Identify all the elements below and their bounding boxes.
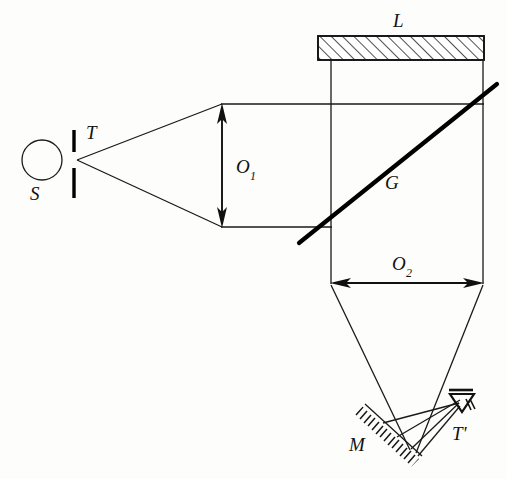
- aperture-1-label-subscript: 1: [250, 169, 256, 183]
- lens-hatching: [318, 36, 484, 60]
- aperture-2-label-base: O: [392, 253, 406, 274]
- image-slit-label: T': [452, 423, 468, 444]
- lens-element: [318, 36, 484, 60]
- aperture-1-label-base: O: [236, 156, 250, 177]
- mirror-label: M: [348, 434, 366, 455]
- optical-diagram-figure: S T O 1: [0, 0, 507, 479]
- source-label: S: [30, 183, 40, 204]
- lens-label: L: [392, 10, 404, 31]
- aperture-2-label-subscript: 2: [406, 266, 412, 280]
- slit-label: T: [86, 122, 98, 143]
- diagram-canvas: S T O 1: [0, 0, 507, 479]
- figure-background: [0, 0, 507, 479]
- beam-splitter-label: G: [385, 172, 399, 193]
